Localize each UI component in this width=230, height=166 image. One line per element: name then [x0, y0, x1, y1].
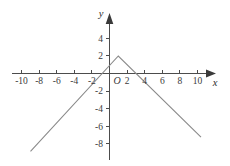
origin-label: O	[114, 75, 121, 86]
x-tick-label: 6	[160, 76, 165, 86]
y-tick-marks	[106, 38, 110, 144]
x-tick-label: -6	[53, 76, 61, 86]
x-tick-label: 2	[125, 76, 130, 86]
y-tick-label: 4	[98, 34, 103, 44]
x-axis-label: x	[212, 77, 218, 88]
y-tick-label: -4	[95, 104, 103, 114]
x-tick-label: -4	[70, 76, 78, 86]
y-tick-label: -8	[95, 139, 103, 149]
x-tick-label: -8	[35, 76, 43, 86]
coordinate-plot: -10 -8 -6 -4 -2 2 4 6 8 10 4 2 -2 -4 -6 …	[0, 0, 230, 166]
y-tick-label: 2	[98, 51, 103, 61]
graph-figure: -10 -8 -6 -4 -2 2 4 6 8 10 4 2 -2 -4 -6 …	[0, 0, 230, 166]
y-tick-label: -2	[95, 86, 103, 96]
up-arrow-icon	[106, 13, 114, 24]
x-tick-label: -2	[88, 76, 96, 86]
y-tick-labels: 4 2 -2 -4 -6 -8	[95, 34, 103, 150]
x-tick-label: 4	[142, 76, 147, 86]
x-tick-labels: -10 -8 -6 -4 -2 2 4 6 8 10	[15, 76, 202, 86]
x-tick-label: -10	[15, 76, 28, 86]
x-tick-label: 8	[178, 76, 183, 86]
function-curve-group	[31, 56, 202, 151]
piecewise-linear-curve	[31, 56, 202, 151]
x-tick-label: 10	[193, 76, 203, 86]
y-axis-label: y	[98, 8, 104, 19]
y-tick-label: -6	[95, 122, 103, 132]
